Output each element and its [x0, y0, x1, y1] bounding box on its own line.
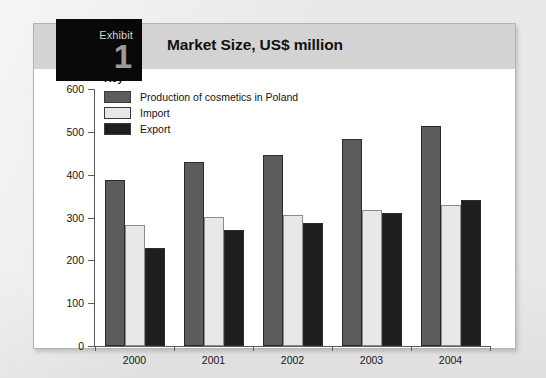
x-axis-group-label: 2001: [174, 354, 253, 366]
legend-label-export: Export: [140, 123, 170, 135]
y-axis-tick: [88, 346, 94, 347]
exhibit-number-badge: Exhibit 1: [56, 19, 142, 81]
bar: [263, 155, 283, 346]
x-axis-tick: [490, 346, 491, 351]
y-axis-tick: [88, 303, 94, 304]
x-axis-group-label: 2004: [411, 354, 490, 366]
y-axis-tick: [88, 218, 94, 219]
bar: [283, 215, 303, 346]
y-axis-line: [94, 89, 95, 347]
x-axis-group-label: 2003: [332, 354, 411, 366]
x-axis-tick: [332, 346, 333, 351]
x-axis-tick: [253, 346, 254, 351]
bar: [204, 217, 224, 346]
legend-label-import: Import: [140, 107, 170, 119]
bar: [303, 223, 323, 346]
y-axis-tick-label: 300: [34, 212, 84, 224]
page-title: Market Size, US$ million: [167, 36, 343, 54]
bar: [461, 200, 481, 346]
legend-swatch-production: [104, 91, 131, 103]
exhibit-panel: Exhibit 1 Market Size, US$ million Key P…: [33, 23, 516, 349]
bar: [342, 139, 362, 346]
bar: [145, 248, 165, 346]
legend-swatch-export: [104, 123, 131, 135]
bar-chart: Key Production of cosmetics in Poland Im…: [34, 69, 515, 348]
x-axis-tick: [174, 346, 175, 351]
y-axis-tick-label: 0: [34, 340, 84, 352]
chart-legend: Key Production of cosmetics in Poland Im…: [104, 72, 298, 138]
y-axis-tick: [88, 260, 94, 261]
legend-label-production: Production of cosmetics in Poland: [140, 91, 298, 103]
x-axis-group-label: 2000: [95, 354, 174, 366]
y-axis-tick-label: 200: [34, 254, 84, 266]
x-axis-tick: [411, 346, 412, 351]
bar: [125, 225, 145, 346]
legend-item-production: Production of cosmetics in Poland: [104, 90, 298, 103]
x-axis-line: [94, 346, 490, 347]
y-axis-tick: [88, 175, 94, 176]
bar: [105, 180, 125, 346]
exhibit-number: 1: [114, 40, 132, 73]
bar: [421, 126, 441, 346]
x-axis-group-label: 2002: [253, 354, 332, 366]
bar: [382, 213, 402, 346]
bar: [362, 210, 382, 346]
y-axis-tick-label: 600: [34, 83, 84, 95]
y-axis-tick: [88, 89, 94, 90]
legend-item-export: Export: [104, 122, 298, 135]
bar: [224, 230, 244, 346]
x-axis-tick: [95, 346, 96, 351]
y-axis-tick-label: 500: [34, 126, 84, 138]
y-axis-tick: [88, 132, 94, 133]
y-axis-tick-label: 100: [34, 297, 84, 309]
bar: [441, 205, 461, 346]
legend-swatch-import: [104, 107, 131, 119]
y-axis-tick-label: 400: [34, 169, 84, 181]
legend-item-import: Import: [104, 106, 298, 119]
bar: [184, 162, 204, 346]
